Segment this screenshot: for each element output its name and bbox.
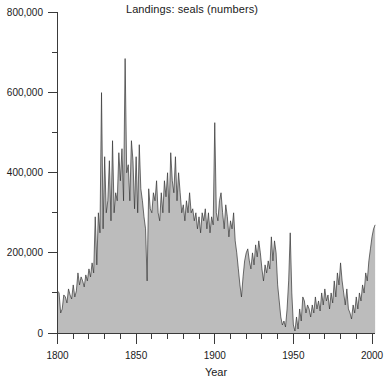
x-tick-label: 1800 [46, 350, 69, 361]
chart-container: Landings: seals (numbers) 0200,000400,00… [0, 0, 384, 380]
y-tick-label: 200,000 [7, 247, 44, 258]
y-tick-label: 400,000 [7, 167, 44, 178]
y-axis-ticks [48, 13, 58, 334]
y-tick-label: 0 [37, 328, 43, 339]
x-tick-label: 1850 [125, 350, 148, 361]
series-seals-landings [58, 59, 376, 333]
x-axis-ticks [58, 333, 373, 344]
x-tick-label: 2000 [361, 350, 384, 361]
x-tick-label: 1900 [204, 350, 227, 361]
y-axis-tick-labels: 0200,000400,000600,000800,000 [7, 7, 44, 339]
y-tick-label: 800,000 [7, 7, 44, 18]
chart-plot-area: 0200,000400,000600,000800,000 1800185019… [0, 0, 384, 380]
x-axis-title: Year [205, 366, 228, 378]
x-axis-tick-labels: 18001850190019502000 [46, 350, 383, 361]
y-tick-label: 600,000 [7, 87, 44, 98]
x-tick-label: 1950 [282, 350, 305, 361]
